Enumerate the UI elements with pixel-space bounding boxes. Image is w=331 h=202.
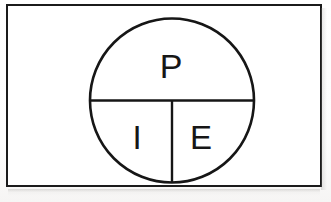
pie-diagram: PIE circle diagram P I E [86, 14, 258, 187]
section-label-p: P [160, 47, 183, 85]
scan-shadow-bottom [8, 189, 320, 196]
section-label-e: E [190, 119, 212, 156]
figure-page: PIE circle diagram P I E [0, 0, 331, 202]
figure-frame: PIE circle diagram P I E [6, 4, 322, 187]
section-label-i: I [132, 119, 141, 156]
